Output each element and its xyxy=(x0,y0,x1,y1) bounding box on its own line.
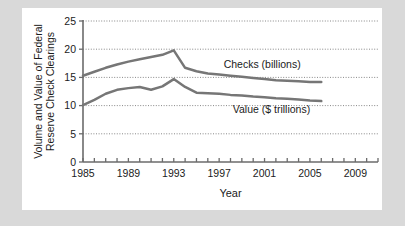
y-axis-tick-label: 5 xyxy=(70,128,76,140)
y-axis-title-line-1: Volume and Value of Federal xyxy=(32,24,44,159)
chart-plot-area: 0510152025 1985198919931997200120052009 … xyxy=(22,8,382,210)
y-axis-title: Volume and Value of Federal Reserve Chec… xyxy=(32,24,56,159)
line-chart-svg: 0510152025 1985198919931997200120052009 … xyxy=(22,8,382,210)
gridlines-group xyxy=(83,21,378,134)
x-axis-tick-label: 1997 xyxy=(207,167,231,179)
x-axis-tick-label: 2001 xyxy=(253,167,277,179)
x-axis-tick-label: 1985 xyxy=(71,167,95,179)
x-axis-tick-label: 2005 xyxy=(298,167,322,179)
chart-figure: 0510152025 1985198919931997200120052009 … xyxy=(22,8,382,210)
series-label: Checks (billions) xyxy=(224,58,301,70)
series-line xyxy=(83,79,321,105)
y-axis-tick-label: 0 xyxy=(70,156,76,168)
y-axis-tick-labels: 0510152025 xyxy=(64,15,76,168)
x-axis-title: Year xyxy=(219,187,242,199)
x-axis-tick-label: 1989 xyxy=(117,167,141,179)
y-axis-tick-label: 25 xyxy=(64,15,76,27)
y-axis-tick-label: 20 xyxy=(64,43,76,55)
x-axis-tick-labels: 1985198919931997200120052009 xyxy=(71,167,367,179)
x-axis-tick-label: 1993 xyxy=(162,167,186,179)
series-label: Value ($ trillions) xyxy=(233,103,310,115)
y-axis-tick-label: 10 xyxy=(64,99,76,111)
y-axis-tick-label: 15 xyxy=(64,71,76,83)
series-annotation-labels: Checks (billions)Value ($ trillions) xyxy=(224,58,310,115)
x-axis-tick-label: 2009 xyxy=(344,167,368,179)
y-axis-title-line-2: Reserve Check Clearings xyxy=(44,32,56,151)
